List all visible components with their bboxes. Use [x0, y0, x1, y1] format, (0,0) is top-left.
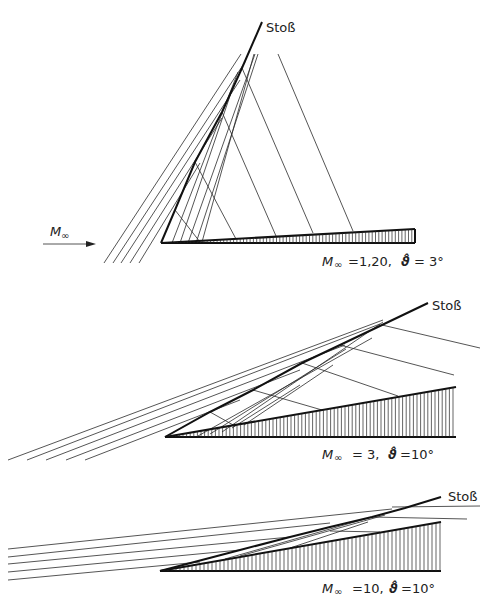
diagram-mach-1-20: M ∞ Stoß [43, 20, 444, 270]
freestream-mach-label: M [50, 224, 61, 239]
svg-text:M: M [322, 254, 333, 269]
condition-label: M ∞ = 3, ϑ̂ =10° [322, 446, 434, 463]
shock-wave-figure: M ∞ Stoß [0, 0, 498, 606]
incoming-characteristics [8, 320, 383, 460]
wedge-body [161, 229, 415, 243]
shock-line [160, 497, 441, 571]
svg-text:=10°: =10° [401, 581, 435, 596]
shock-label: Stoß [266, 20, 296, 35]
svg-text:ϑ̂: ϑ̂ [388, 446, 397, 462]
freestream-mach-sub: ∞ [61, 230, 69, 241]
freestream-arrow-icon [43, 241, 96, 247]
diagram-mach-10: Stoß M ∞ =10, ϑ̂ =10° [8, 489, 480, 597]
svg-text:ϑ̂: ϑ̂ [389, 580, 398, 596]
wedge-body [160, 522, 441, 571]
svg-text:∞: ∞ [334, 586, 342, 597]
diagram-mach-3: Stoß M ∞ = 3, ϑ̂ =10° [8, 298, 480, 463]
svg-text:∞: ∞ [334, 452, 342, 463]
condition-label: M ∞ =10, ϑ̂ =10° [322, 580, 435, 597]
shock-label: Stoß [432, 298, 462, 313]
svg-text:=1,20,: =1,20, [348, 254, 392, 269]
shock-label: Stoß [448, 489, 478, 504]
svg-text:M: M [322, 447, 333, 462]
svg-text:=10°: =10° [400, 447, 434, 462]
svg-text:= 3°: = 3° [414, 254, 444, 269]
svg-text:∞: ∞ [334, 259, 342, 270]
shock-line [161, 22, 262, 243]
svg-text:= 3,: = 3, [352, 447, 379, 462]
condition-label: M ∞ =1,20, ϑ̂ = 3° [322, 253, 444, 270]
svg-text:=10,: =10, [352, 581, 384, 596]
svg-text:M: M [322, 581, 333, 596]
svg-text:ϑ̂: ϑ̂ [401, 253, 410, 269]
